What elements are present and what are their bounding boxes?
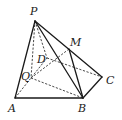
label-B: B (77, 102, 86, 115)
label-C: C (106, 74, 115, 87)
label-M: M (69, 36, 82, 49)
label-P: P (29, 5, 38, 18)
pyramid-diagram: P A B C D M Q (0, 0, 122, 120)
edge-MB (69, 49, 83, 98)
edge-BC (83, 77, 102, 98)
label-Q: Q (21, 70, 30, 83)
label-A: A (7, 102, 16, 115)
label-D: D (36, 53, 46, 66)
edge-QB (31, 78, 83, 98)
